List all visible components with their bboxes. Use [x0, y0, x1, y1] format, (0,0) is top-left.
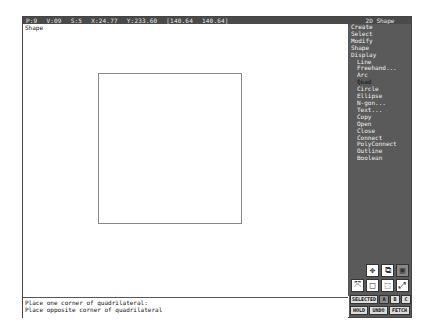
status-x: X:24.77	[91, 17, 118, 24]
move-icon: ✥	[370, 266, 375, 275]
command-prompt: Place one corner of quadrilateral: Place…	[23, 297, 348, 318]
status-dim-h: 140.64]	[202, 17, 229, 24]
status-dim-w: [140.64	[166, 17, 193, 24]
prompt-line-1: Place one corner of quadrilateral:	[25, 299, 348, 306]
selection-buttons: SELECTED A B C	[349, 295, 412, 304]
hold-button[interactable]: HOLD	[350, 306, 368, 315]
shrink-tool-button[interactable]: ⤧	[351, 279, 364, 292]
3d-box-tool-button[interactable]: ⬚	[381, 279, 394, 292]
status-p: P:9	[26, 17, 37, 24]
prompt-line-2: Place opposite corner of quadrilateral	[25, 306, 348, 313]
status-s: S:5	[71, 17, 82, 24]
shrink-icon: ⤧	[354, 281, 361, 290]
a-button[interactable]: A	[379, 295, 389, 304]
zoom-window-tool-button[interactable]: ⧉	[381, 264, 394, 277]
expand-icon: ⤢	[399, 281, 406, 290]
status-v: V:09	[46, 17, 61, 24]
frame-icon: □	[370, 281, 375, 290]
drawing-canvas[interactable]: Shape	[23, 24, 349, 296]
app-window: P:9 V:09 S:5 X:24.77 Y:233.60 [140.64 14…	[22, 16, 412, 318]
grid-tool-button[interactable]: ▣	[396, 264, 409, 277]
c-button[interactable]: C	[401, 295, 411, 304]
3d-box-icon: ⬚	[385, 281, 390, 290]
fetch-button[interactable]: FETCH	[389, 306, 410, 315]
grid-icon: ▣	[400, 266, 405, 275]
selected-button[interactable]: SELECTED	[350, 295, 378, 304]
side-menu: Create Select Modify Shape Display Line …	[349, 24, 411, 317]
status-bar: P:9 V:09 S:5 X:24.77 Y:233.60 [140.64 14…	[23, 17, 349, 24]
action-buttons: HOLD UNDO FETCH	[349, 306, 412, 315]
b-button[interactable]: B	[390, 295, 400, 304]
undo-button[interactable]: UNDO	[369, 306, 388, 315]
frame-tool-button[interactable]: □	[366, 279, 379, 292]
canvas-mode-label: Shape	[25, 24, 43, 31]
move-tool-button[interactable]: ✥	[366, 264, 379, 277]
quadrilateral-shape[interactable]	[98, 73, 242, 224]
menu-boolean[interactable]: Boolean	[349, 155, 411, 162]
zoom-window-icon: ⧉	[385, 266, 391, 275]
status-y: Y:233.60	[127, 17, 158, 24]
expand-tool-button[interactable]: ⤢	[396, 279, 409, 292]
